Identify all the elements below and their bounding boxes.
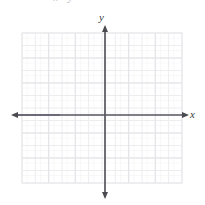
y-axis-arrowhead-bottom-icon xyxy=(102,192,108,199)
y-axis-arrowhead-top-icon xyxy=(102,25,108,32)
grid-and-axes-svg xyxy=(0,0,205,205)
grid-field xyxy=(22,33,182,183)
x-axis-label: x xyxy=(190,109,195,120)
y-axis-label: y xyxy=(99,12,104,23)
x-axis-arrowhead-right-icon xyxy=(182,112,189,118)
figure-canvas: w y xyxy=(0,0,205,205)
x-axis-arrowhead-left-icon xyxy=(11,112,18,118)
coordinate-plane: y x xyxy=(0,0,205,205)
